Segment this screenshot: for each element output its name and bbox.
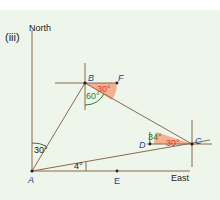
point-d [149,143,152,146]
angle-label-a-30: 30° [34,145,48,155]
label-c: C [195,136,202,146]
bearing-diagram: (iii) North East A B F C D E 30° 60° 30°… [0,0,220,200]
label-b: B [88,73,94,83]
point-e [116,170,119,173]
angle-label-c-30: 30° [166,138,180,148]
east-label: East [171,173,190,183]
label-a: A [27,175,34,185]
north-label: North [29,23,51,33]
label-d: D [139,140,146,150]
angle-label-d-34: 34° [148,132,162,142]
point-c [190,142,193,145]
angle-label-a-4: 4° [74,161,83,171]
label-e: E [114,176,120,186]
angle-label-b-30: 30° [97,84,111,94]
point-a [30,169,33,172]
part-label: (iii) [5,31,20,43]
point-b [83,81,86,84]
line-ac [32,140,210,171]
label-f: F [118,73,124,83]
line-ab [32,83,85,171]
